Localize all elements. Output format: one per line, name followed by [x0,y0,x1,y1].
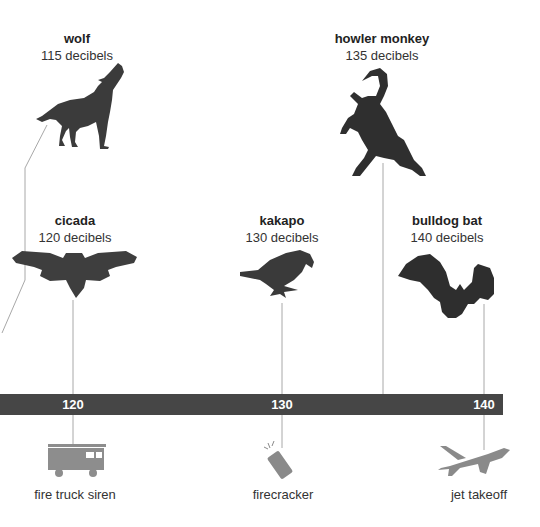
animal-name: bulldog bat [377,212,517,229]
cicada-icon [12,251,137,298]
tick-140: 140 [464,397,504,412]
airplane-icon [438,446,510,476]
animal-decibels: 120 decibels [5,229,145,246]
wolf-icon [36,63,124,149]
reference-firecracker: firecracker [213,487,353,502]
animal-name: wolf [7,30,147,47]
bulldog-bat-icon [398,254,494,318]
tick-120: 120 [53,397,93,412]
animal-decibels: 140 decibels [377,229,517,246]
howler-monkey-icon [340,68,426,176]
animal-name: kakapo [212,212,352,229]
kakapo-bird-icon [240,250,314,298]
howler-monkey-label: howler monkey 135 decibels [312,30,452,64]
animal-decibels: 130 decibels [212,229,352,246]
reference-fire-truck-siren: fire truck siren [5,487,145,502]
animal-name: howler monkey [312,30,452,47]
animal-decibels: 115 decibels [7,47,147,64]
kakapo-label: kakapo 130 decibels [212,212,352,246]
firecracker-icon [264,441,293,480]
bulldog-bat-label: bulldog bat 140 decibels [377,212,517,246]
tick-130: 130 [262,397,302,412]
reference-jet-takeoff: jet takeoff [409,487,540,502]
animal-name: cicada [5,212,145,229]
wolf-label: wolf 115 decibels [7,30,147,64]
diagram-graphics [0,0,540,527]
cicada-label: cicada 120 decibels [5,212,145,246]
fire-truck-icon [48,444,106,477]
animal-decibels: 135 decibels [312,47,452,64]
